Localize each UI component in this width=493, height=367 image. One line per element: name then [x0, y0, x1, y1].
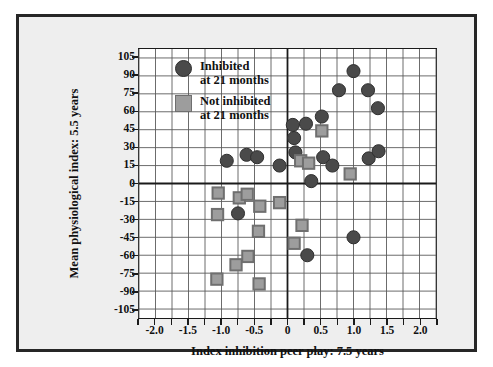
y-axis-tick-label: 105 — [95, 51, 135, 63]
legend-label-inhibited: Inhibited at 21 months — [200, 59, 269, 87]
y-axis-tick-label: -60 — [95, 250, 135, 262]
x-axis-tick-mark — [237, 319, 238, 325]
legend-item-inhibited: Inhibited at 21 months — [175, 59, 325, 87]
data-point-inhibited — [347, 65, 360, 78]
y-axis-tick-label: 30 — [95, 142, 135, 154]
data-point-not-inhibited — [213, 187, 224, 198]
data-point-inhibited — [326, 159, 339, 172]
x-axis-tick-labels: -2.0-1.5-1.0-0.500.51.01.52.0 — [138, 325, 437, 341]
data-point-inhibited — [372, 145, 385, 158]
y-axis-tick-label: 0 — [95, 178, 135, 190]
data-point-inhibited — [371, 102, 384, 115]
data-point-not-inhibited — [253, 278, 264, 289]
x-axis-tick-mark — [386, 319, 387, 325]
x-axis-tick-mark — [420, 319, 421, 325]
data-point-inhibited — [220, 154, 233, 167]
legend-label-inhibited-line2: at 21 months — [200, 73, 269, 87]
y-axis-tick-label: -45 — [95, 232, 135, 244]
y-axis-tick-labels: 1059075604530150-15-30-45-60-75-90-105 — [91, 48, 135, 319]
x-axis-tick-label: 2.0 — [397, 325, 443, 337]
x-axis-tick-mark — [204, 319, 205, 325]
data-point-inhibited — [332, 84, 345, 97]
y-axis-tick-label: 45 — [95, 124, 135, 136]
data-point-not-inhibited — [303, 158, 314, 169]
data-point-not-inhibited — [274, 197, 285, 208]
y-axis-tick-label: 60 — [95, 105, 135, 117]
x-axis-tick-mark — [171, 319, 172, 325]
data-point-inhibited — [251, 151, 264, 164]
data-point-not-inhibited — [212, 209, 223, 220]
data-point-not-inhibited — [296, 220, 307, 231]
y-axis-tick-label: -105 — [95, 304, 135, 316]
legend-label-inhibited-line1: Inhibited — [200, 59, 249, 73]
data-point-inhibited — [305, 175, 318, 188]
y-axis-tick-label: 15 — [95, 160, 135, 172]
x-axis-label: Index inhibition peer play: 7.5 years — [138, 344, 437, 359]
x-axis-tick-mark — [320, 319, 321, 325]
legend-item-not-inhibited: Not inhibited at 21 months — [175, 94, 325, 122]
x-axis-tick-mark — [187, 319, 188, 325]
x-axis-tick-mark — [154, 319, 155, 325]
legend-label-not-inhibited: Not inhibited at 21 months — [200, 94, 271, 122]
legend-label-not-inhibited-line2: at 21 months — [200, 108, 269, 122]
chart-legend: Inhibited at 21 months Not inhibited at … — [175, 59, 325, 129]
y-axis-tick-label: -75 — [95, 268, 135, 280]
x-axis-tick-mark — [287, 319, 288, 325]
data-point-inhibited — [231, 207, 244, 220]
data-point-not-inhibited — [242, 251, 253, 262]
x-axis-tick-mark — [436, 319, 437, 325]
data-point-not-inhibited — [253, 226, 264, 237]
x-axis-tick-mark — [337, 319, 338, 325]
data-point-inhibited — [361, 84, 374, 97]
figure-outer-frame: Mean physiological index: 5.5 years 1059… — [16, 14, 477, 352]
data-point-inhibited — [347, 231, 360, 244]
legend-square-marker-icon — [175, 95, 192, 112]
data-point-not-inhibited — [242, 189, 253, 200]
data-point-not-inhibited — [254, 201, 265, 212]
x-axis-tick-mark — [220, 319, 221, 325]
legend-circle-marker-icon — [175, 60, 192, 77]
x-axis-tick-mark — [303, 319, 304, 325]
x-axis-tick-mark — [370, 319, 371, 325]
plot-area: Inhibited at 21 months Not inhibited at … — [138, 48, 437, 319]
y-axis-label-container: Mean physiological index: 5.5 years — [67, 48, 85, 319]
y-axis-label: Mean physiological index: 5.5 years — [67, 48, 82, 319]
data-point-not-inhibited — [211, 273, 222, 284]
x-axis-tick-mark — [403, 319, 404, 325]
y-axis-tick-label: -90 — [95, 286, 135, 298]
data-point-inhibited — [273, 159, 286, 172]
scatter-plot-figure: Mean physiological index: 5.5 years 1059… — [0, 0, 493, 367]
y-axis-tick-label: -30 — [95, 214, 135, 226]
y-axis-tick-label: 75 — [95, 87, 135, 99]
y-axis-tick-label: 90 — [95, 69, 135, 81]
data-point-not-inhibited — [288, 238, 299, 249]
x-axis-tick-mark — [270, 319, 271, 325]
data-point-inhibited — [288, 132, 301, 145]
data-point-not-inhibited — [345, 168, 356, 179]
y-axis-tick-label: -15 — [95, 196, 135, 208]
x-axis-tick-mark — [254, 319, 255, 325]
x-axis-tick-mark — [137, 319, 138, 325]
data-point-inhibited — [301, 249, 314, 262]
legend-label-not-inhibited-line1: Not inhibited — [200, 94, 271, 108]
data-point-not-inhibited — [230, 259, 241, 270]
x-axis-tick-mark — [353, 319, 354, 325]
